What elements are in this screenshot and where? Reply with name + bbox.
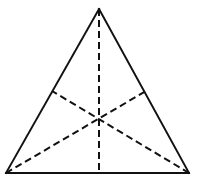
figure-root: Equilateral triangle with three medians … — [0, 0, 197, 190]
triangle-diagram: Equilateral triangle with three medians … — [0, 0, 197, 190]
